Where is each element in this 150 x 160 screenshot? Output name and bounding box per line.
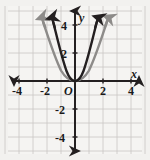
y-tick-label-pos2: 2 — [61, 48, 67, 60]
x-tick-label-pos4: 4 — [128, 85, 134, 97]
y-tick-label-pos4: 4 — [61, 20, 67, 32]
graph-figure: -4 -2 2 4 4 2 -2 -4 O x y — [0, 0, 150, 160]
y-tick-label-neg2: -2 — [55, 104, 65, 116]
origin-label: O — [64, 85, 73, 97]
x-tick-label-pos2: 2 — [100, 85, 106, 97]
y-tick-label-neg4: -4 — [55, 132, 65, 144]
x-axis-label: x — [131, 68, 137, 80]
y-axis-label: y — [79, 12, 84, 24]
coordinate-plane — [0, 0, 150, 160]
x-tick-label-neg2: -2 — [40, 85, 50, 97]
x-tick-label-neg4: -4 — [12, 85, 22, 97]
